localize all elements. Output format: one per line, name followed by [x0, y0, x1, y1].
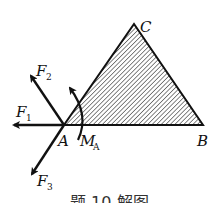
label-ma-sub: A: [92, 142, 100, 152]
label-f2-sub: 2: [46, 72, 52, 82]
label-f3-sub: 3: [47, 182, 53, 192]
label-c: C: [140, 18, 152, 36]
free-body-diagram: C B A F 2 F 1 F 3 M A 题 10 解图: [0, 0, 215, 203]
label-a: A: [56, 132, 69, 150]
label-f1-sub: 1: [26, 113, 32, 123]
label-b: B: [196, 132, 208, 150]
triangle-body: [64, 24, 203, 125]
figure-caption: 题 10 解图: [70, 193, 149, 203]
force-f2-arrow: [31, 76, 64, 125]
